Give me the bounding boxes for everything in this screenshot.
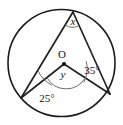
label-center-o: O	[58, 48, 66, 60]
label-angle-y: y	[60, 68, 66, 80]
geometry-diagram: O x y 25° 35°	[0, 0, 123, 125]
label-angle-x: x	[70, 15, 76, 27]
label-angle-25-degrees: 25°	[39, 92, 54, 104]
label-angle-35-degrees: 35°	[84, 64, 99, 76]
geometry-canvas: O x y 25° 35°	[0, 0, 123, 125]
angle-arc-center	[47, 78, 85, 89]
center-point-dot	[62, 62, 66, 66]
